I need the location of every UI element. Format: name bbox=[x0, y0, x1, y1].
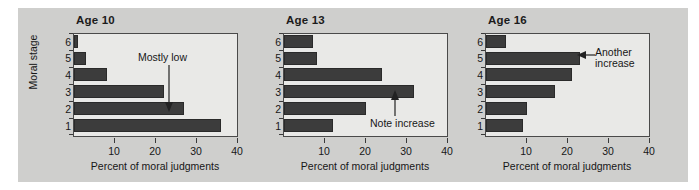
y-axis-title: Moral stage bbox=[27, 35, 39, 90]
annotation-arrow-left-icon bbox=[577, 49, 595, 61]
bar-stage-1 bbox=[486, 119, 523, 132]
figure-panel: Age 10 Moral stage 1 2 3 4 5 6 bbox=[18, 8, 688, 182]
y-tick-label-5: 5 bbox=[477, 53, 483, 63]
bar-stage-4 bbox=[74, 68, 107, 81]
x-axis-tick bbox=[567, 138, 568, 143]
bar-stage-1 bbox=[74, 119, 221, 132]
chart-group: Age 10 Moral stage 1 2 3 4 5 6 bbox=[18, 8, 688, 182]
x-tick-label-10: 10 bbox=[520, 145, 532, 157]
x-axis-tick bbox=[406, 138, 407, 143]
annotation-another-increase: Another increase bbox=[595, 47, 635, 69]
chart-age-10: Age 10 Moral stage 1 2 3 4 5 6 bbox=[20, 8, 242, 182]
x-tick-label-10: 10 bbox=[318, 145, 330, 157]
y-tick-label-4: 4 bbox=[477, 70, 483, 80]
annotation-arrow-down-icon bbox=[163, 65, 175, 113]
x-axis-title: Percent of moral judgments bbox=[503, 160, 631, 172]
bar-stage-5 bbox=[486, 52, 580, 65]
bar-stage-3 bbox=[486, 85, 555, 98]
x-tick-label-30: 30 bbox=[190, 145, 202, 157]
x-axis-tick bbox=[237, 138, 238, 143]
bar-stage-5 bbox=[74, 52, 86, 65]
y-tick-label-2: 2 bbox=[65, 104, 71, 114]
bar-series bbox=[74, 34, 237, 136]
bar-stage-3 bbox=[74, 85, 164, 98]
y-tick-label-3: 3 bbox=[275, 87, 281, 97]
x-tick-label-40: 40 bbox=[643, 145, 655, 157]
y-tick-label-6: 6 bbox=[477, 37, 483, 47]
y-tick-label-3: 3 bbox=[65, 87, 71, 97]
x-axis-tick bbox=[649, 138, 650, 143]
y-tick-label-1: 1 bbox=[275, 121, 281, 131]
y-tick-label-5: 5 bbox=[275, 53, 281, 63]
y-tick-label-4: 4 bbox=[275, 70, 281, 80]
x-tick-label-20: 20 bbox=[561, 145, 573, 157]
x-axis-tick bbox=[526, 138, 527, 143]
annotation-arrow-up-icon bbox=[389, 90, 401, 116]
chart-title: Age 16 bbox=[488, 14, 527, 26]
y-axis-labels: 1 2 3 4 5 6 bbox=[51, 33, 73, 137]
y-axis-labels: 1 2 3 4 5 6 bbox=[463, 33, 485, 137]
x-axis-title: Percent of moral judgments bbox=[91, 160, 219, 172]
y-tick-label-4: 4 bbox=[65, 70, 71, 80]
y-axis-labels: 1 2 3 4 5 6 bbox=[261, 33, 283, 137]
x-axis-tick bbox=[114, 138, 115, 143]
annotation-mostly-low: Mostly low bbox=[138, 52, 187, 63]
y-tick-label-3: 3 bbox=[477, 87, 483, 97]
chart-age-13: Age 13 1 2 3 4 5 6 bbox=[242, 8, 464, 182]
y-tick-label-5: 5 bbox=[65, 53, 71, 63]
x-tick-label-30: 30 bbox=[400, 145, 412, 157]
chart-title: Age 10 bbox=[76, 14, 115, 26]
x-axis-tick bbox=[608, 138, 609, 143]
y-tick-label-6: 6 bbox=[275, 37, 281, 47]
chart-age-16: Age 16 1 2 3 4 5 6 bbox=[462, 8, 684, 182]
x-axis-tick bbox=[365, 138, 366, 143]
x-axis-tick bbox=[324, 138, 325, 143]
x-tick-label-20: 20 bbox=[149, 145, 161, 157]
chart-title: Age 13 bbox=[286, 14, 325, 26]
x-axis-title: Percent of moral judgments bbox=[301, 160, 429, 172]
bar-stage-2 bbox=[486, 102, 527, 115]
x-axis-tick bbox=[155, 138, 156, 143]
plot-area bbox=[73, 33, 238, 137]
bar-stage-4 bbox=[284, 68, 382, 81]
x-tick-label-20: 20 bbox=[359, 145, 371, 157]
annotation-note-increase: Note increase bbox=[370, 118, 435, 129]
y-tick-label-2: 2 bbox=[477, 104, 483, 114]
y-tick-label-6: 6 bbox=[65, 37, 71, 47]
bar-stage-1 bbox=[284, 119, 333, 132]
x-axis-tick bbox=[447, 138, 448, 143]
x-tick-label-40: 40 bbox=[441, 145, 453, 157]
x-axis-tick bbox=[196, 138, 197, 143]
y-tick-label-1: 1 bbox=[65, 121, 71, 131]
bar-stage-6 bbox=[284, 35, 313, 48]
bar-stage-5 bbox=[284, 52, 317, 65]
bar-stage-6 bbox=[486, 35, 506, 48]
bar-stage-2 bbox=[284, 102, 366, 115]
bar-stage-6 bbox=[74, 35, 78, 48]
y-tick-label-2: 2 bbox=[275, 104, 281, 114]
x-tick-label-30: 30 bbox=[602, 145, 614, 157]
y-tick-label-1: 1 bbox=[477, 121, 483, 131]
x-tick-label-10: 10 bbox=[108, 145, 120, 157]
bar-stage-4 bbox=[486, 68, 572, 81]
